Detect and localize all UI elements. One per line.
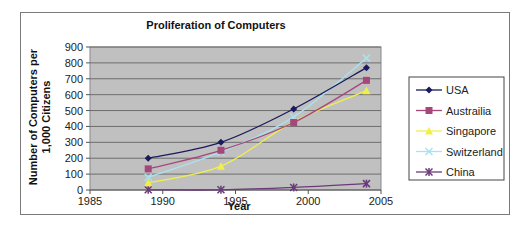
legend-marker-austrailia: [426, 107, 433, 114]
data-point-austrailia: [290, 119, 297, 126]
x-tick-label: 2000: [296, 195, 320, 207]
chart: Proliferation of Computers 0100200300400…: [21, 13, 511, 216]
legend-label: China: [446, 166, 476, 178]
y-tick-label: 100: [65, 168, 83, 180]
y-axis-title-line-1: Number of Computers per: [27, 48, 39, 185]
y-tick-label: 300: [65, 136, 83, 148]
data-point-austrailia: [363, 77, 370, 84]
chart-frame: Proliferation of Computers 0100200300400…: [20, 12, 510, 215]
legend-label: Switzerland: [446, 146, 503, 158]
legend-label: Singapore: [446, 125, 496, 137]
legend-label: USA: [446, 84, 469, 96]
data-point-austrailia: [145, 165, 152, 172]
x-tick-label: 1985: [78, 195, 102, 207]
x-tick-label: 1990: [151, 195, 175, 207]
y-tick-label: 600: [65, 89, 83, 101]
y-tick-label: 400: [65, 120, 83, 132]
y-axis-title-line-2: 1,000 Citizens: [40, 81, 52, 154]
plot-background: [90, 47, 381, 190]
legend-label: Austrailia: [446, 105, 492, 117]
y-tick-label: 800: [65, 57, 83, 69]
y-tick-label: 500: [65, 105, 83, 117]
x-tick-label: 2005: [369, 195, 393, 207]
chart-title: Proliferation of Computers: [146, 19, 285, 31]
y-tick-label: 700: [65, 73, 83, 85]
x-axis-title: Year: [227, 200, 251, 212]
plot-area: 0100200300400500600700800900198519901995…: [65, 41, 394, 207]
y-axis-title: Number of Computers per 1,000 Citizens: [27, 48, 52, 185]
y-tick-label: 900: [65, 41, 83, 53]
legend: USAAustrailiaSingaporeSwitzerlandChina: [409, 77, 504, 180]
data-point-austrailia: [217, 147, 224, 154]
y-tick-label: 200: [65, 152, 83, 164]
